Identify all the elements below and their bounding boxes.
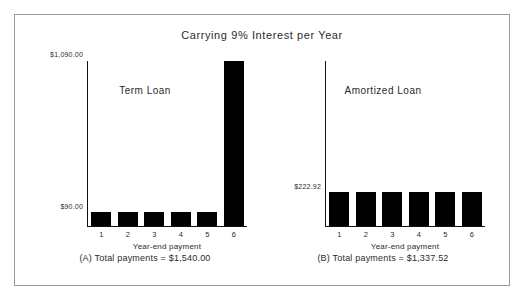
bar-slot <box>168 61 195 226</box>
bar-series-amortized-loan <box>326 61 485 226</box>
x-tick-label: 3 <box>141 230 168 239</box>
plot-area-amortized-loan: $222.92 123456 Year-end payment <box>325 61 485 227</box>
x-tick-labels: 123456 <box>88 230 247 239</box>
x-tick-label: 3 <box>379 230 406 239</box>
bar-slot <box>353 61 380 226</box>
x-tick-labels: 123456 <box>326 230 485 239</box>
plot-area-term-loan: $1,090.00 $90.00 123456 Year-end payment <box>87 61 247 227</box>
x-tick-label: 4 <box>406 230 433 239</box>
panel-caption-b: (B) Total payments = $1,337.52 <box>263 253 503 263</box>
bar-slot <box>432 61 459 226</box>
x-tick-label: 4 <box>168 230 195 239</box>
bar-slot <box>379 61 406 226</box>
bar-slot <box>406 61 433 226</box>
x-axis <box>325 226 485 227</box>
bar <box>144 212 164 226</box>
bar <box>224 61 244 226</box>
x-axis-title: Year-end payment <box>87 242 247 251</box>
bar <box>329 192 349 226</box>
y-tick-label-low: $90.00 <box>60 203 83 210</box>
x-tick-label: 6 <box>221 230 248 239</box>
bar <box>356 192 376 226</box>
bar <box>118 212 138 226</box>
bar <box>462 192 482 226</box>
bar-slot <box>459 61 486 226</box>
bar-slot <box>115 61 142 226</box>
x-tick-label: 1 <box>88 230 115 239</box>
bar-slot <box>141 61 168 226</box>
bar-slot <box>326 61 353 226</box>
x-tick-label: 2 <box>115 230 142 239</box>
bar <box>171 212 191 226</box>
x-tick-label: 2 <box>353 230 380 239</box>
panel-caption-a: (A) Total payments = $1,540.00 <box>25 253 265 263</box>
figure-title: Carrying 9% Interest per Year <box>15 29 509 41</box>
bar-slot <box>194 61 221 226</box>
bar-series-term-loan <box>88 61 247 226</box>
x-tick-label: 5 <box>194 230 221 239</box>
figure-container: Carrying 9% Interest per Year Term Loan … <box>14 14 510 286</box>
y-tick-label-high: $1,090.00 <box>50 51 83 58</box>
bar <box>435 192 455 226</box>
chart-panel-term-loan: Term Loan $1,090.00 $90.00 123456 Year-e… <box>25 47 265 279</box>
bar-slot <box>221 61 248 226</box>
x-tick-label: 5 <box>432 230 459 239</box>
x-axis-title: Year-end payment <box>325 242 485 251</box>
bar <box>409 192 429 226</box>
y-tick-label: $222.92 <box>294 183 321 190</box>
bar <box>197 212 217 226</box>
x-tick-label: 1 <box>326 230 353 239</box>
bar-slot <box>88 61 115 226</box>
x-axis <box>87 226 247 227</box>
x-tick-label: 6 <box>459 230 486 239</box>
chart-panel-amortized-loan: Amortized Loan $222.92 123456 Year-end p… <box>263 47 503 279</box>
bar <box>382 192 402 226</box>
bar <box>91 212 111 226</box>
